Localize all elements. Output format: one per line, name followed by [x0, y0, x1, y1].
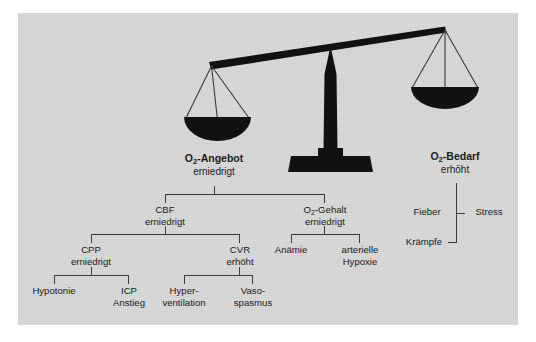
o2gehalt-subscript: 2: [311, 209, 315, 216]
node-cbf: CBF erniedrigt: [145, 205, 185, 227]
supply-subscript: 2: [193, 157, 197, 166]
demand-subscript: 2: [439, 155, 443, 164]
supply-state: erniedrigt: [185, 166, 243, 177]
node-cbf-label: CBF: [155, 204, 174, 215]
leaf-hypoxie-label2: Hypoxie: [342, 257, 379, 268]
leaf-hyperventilation-label2: ventilation: [162, 298, 205, 309]
leaf-hypoxie-label: arterielle: [342, 244, 379, 255]
node-cvr-label: CVR: [230, 244, 250, 255]
demand-factor-stress: Stress: [475, 207, 502, 218]
leaf-icp-label2: Anstieg: [113, 298, 145, 309]
leaf-hypotonie: Hypotonie: [32, 286, 75, 297]
node-cpp-state: erniedrigt: [71, 257, 111, 268]
demand-heading-text: O2-Bedarf: [430, 150, 479, 162]
leaf-hypoxie: arterielle Hypoxie: [342, 245, 379, 267]
demand-factor-fieber: Fieber: [413, 207, 440, 218]
leaf-vasospasmus: Vaso- spasmus: [234, 286, 272, 308]
demand-state: erhöht: [430, 164, 479, 175]
node-cpp: CPP erniedrigt: [71, 245, 111, 267]
figure-canvas: O2-Angebot erniedrigt O2-Bedarf erhöht F…: [0, 0, 536, 342]
node-cpp-label: CPP: [81, 244, 101, 255]
leaf-icp-label: ICP: [121, 285, 137, 296]
leaf-icp: ICP Anstieg: [113, 286, 145, 308]
node-cvr: CVR erhöht: [226, 245, 253, 267]
demand-factor-kraempfe: Krämpfe: [406, 237, 442, 248]
leaf-vasospasmus-label2: spasmus: [234, 298, 272, 309]
supply-heading: O2-Angebot erniedrigt: [185, 153, 243, 177]
node-o2gehalt-state: erniedrigt: [304, 217, 347, 228]
leaf-hyperventilation-label: Hyper-: [170, 285, 199, 296]
node-o2gehalt-label: O2-Gehalt: [304, 204, 347, 215]
leaf-vasospasmus-label: Vaso-: [241, 285, 265, 296]
demand-heading: O2-Bedarf erhöht: [430, 151, 479, 175]
leaf-hypotonie-label: Hypotonie: [32, 285, 75, 296]
leaf-anaemie: Anämie: [275, 245, 308, 256]
leaf-hyperventilation: Hyper- ventilation: [162, 286, 205, 308]
leaf-anaemie-label: Anämie: [275, 244, 308, 255]
node-cvr-state: erhöht: [226, 257, 253, 268]
node-o2gehalt: O2-Gehalt erniedrigt: [304, 205, 347, 227]
supply-heading-text: O2-Angebot: [185, 152, 243, 164]
node-cbf-state: erniedrigt: [145, 217, 185, 228]
